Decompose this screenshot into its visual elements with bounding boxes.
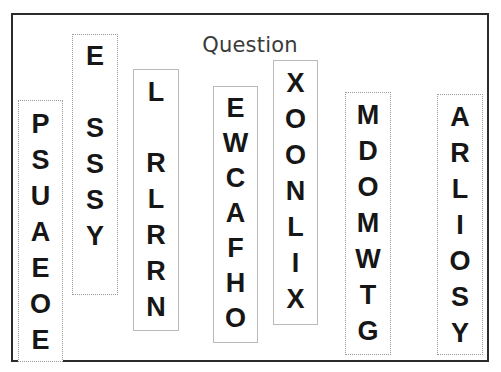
- column-letter: A: [214, 200, 257, 227]
- column-letter: W: [214, 130, 257, 157]
- column-letter: X: [274, 70, 317, 97]
- column-letter: O: [19, 291, 62, 318]
- column-letter: O: [274, 106, 317, 133]
- column-letter: L: [134, 79, 178, 106]
- column-letter: R: [134, 258, 178, 285]
- column-letter: E: [19, 327, 62, 354]
- column-letter: L: [134, 186, 178, 213]
- column-letter: L: [274, 214, 317, 241]
- column-letter: I: [438, 212, 482, 239]
- column-letter: W: [346, 246, 390, 273]
- column-letter: Y: [438, 320, 482, 347]
- letter-column: ESSSY: [72, 34, 118, 295]
- column-letter: A: [438, 104, 482, 131]
- column-letter: R: [134, 150, 178, 177]
- column-letter: X: [274, 286, 317, 313]
- column-letter: O: [274, 142, 317, 169]
- column-letter: O: [346, 174, 390, 201]
- column-letter: S: [438, 284, 482, 311]
- column-letter: E: [214, 95, 257, 122]
- column-letter: S: [19, 147, 62, 174]
- letter-column: PSUAEOE: [18, 100, 63, 362]
- column-letter: T: [346, 282, 390, 309]
- column-letter: N: [274, 178, 317, 205]
- column-letter: G: [346, 318, 390, 345]
- column-letter: M: [346, 102, 390, 129]
- column-letter: P: [19, 111, 62, 138]
- column-letter: N: [134, 294, 178, 321]
- column-letter: Y: [73, 223, 117, 250]
- column-letter: C: [214, 165, 257, 192]
- column-letter: M: [346, 210, 390, 237]
- column-letter: S: [73, 115, 117, 142]
- letter-column: XOONLIX: [273, 60, 318, 325]
- column-letter: O: [438, 248, 482, 275]
- column-letter: D: [346, 138, 390, 165]
- screenshot-canvas: Question PSUAEOEESSSYLRLRRNEWCAFHOXOONLI…: [0, 0, 501, 372]
- column-letter: E: [73, 43, 117, 70]
- column-letter: R: [134, 222, 178, 249]
- column-letter: F: [214, 235, 257, 262]
- column-letter: A: [19, 219, 62, 246]
- column-letter: R: [438, 140, 482, 167]
- letter-column: MDOMWTG: [345, 92, 391, 355]
- column-letter: H: [214, 270, 257, 297]
- column-letter: E: [19, 255, 62, 282]
- column-letter: L: [438, 176, 482, 203]
- letter-gap: [73, 79, 117, 115]
- column-letter: S: [73, 187, 117, 214]
- column-letter: S: [73, 151, 117, 178]
- column-letter: O: [214, 305, 257, 332]
- letter-gap: [134, 115, 178, 150]
- letter-column: LRLRRN: [133, 69, 179, 331]
- question-frame: Question PSUAEOEESSSYLRLRRNEWCAFHOXOONLI…: [11, 13, 489, 362]
- letter-column: EWCAFHO: [213, 86, 258, 343]
- column-letter: U: [19, 183, 62, 210]
- letter-column: ARLIOSY: [437, 94, 483, 355]
- column-letter: I: [274, 250, 317, 277]
